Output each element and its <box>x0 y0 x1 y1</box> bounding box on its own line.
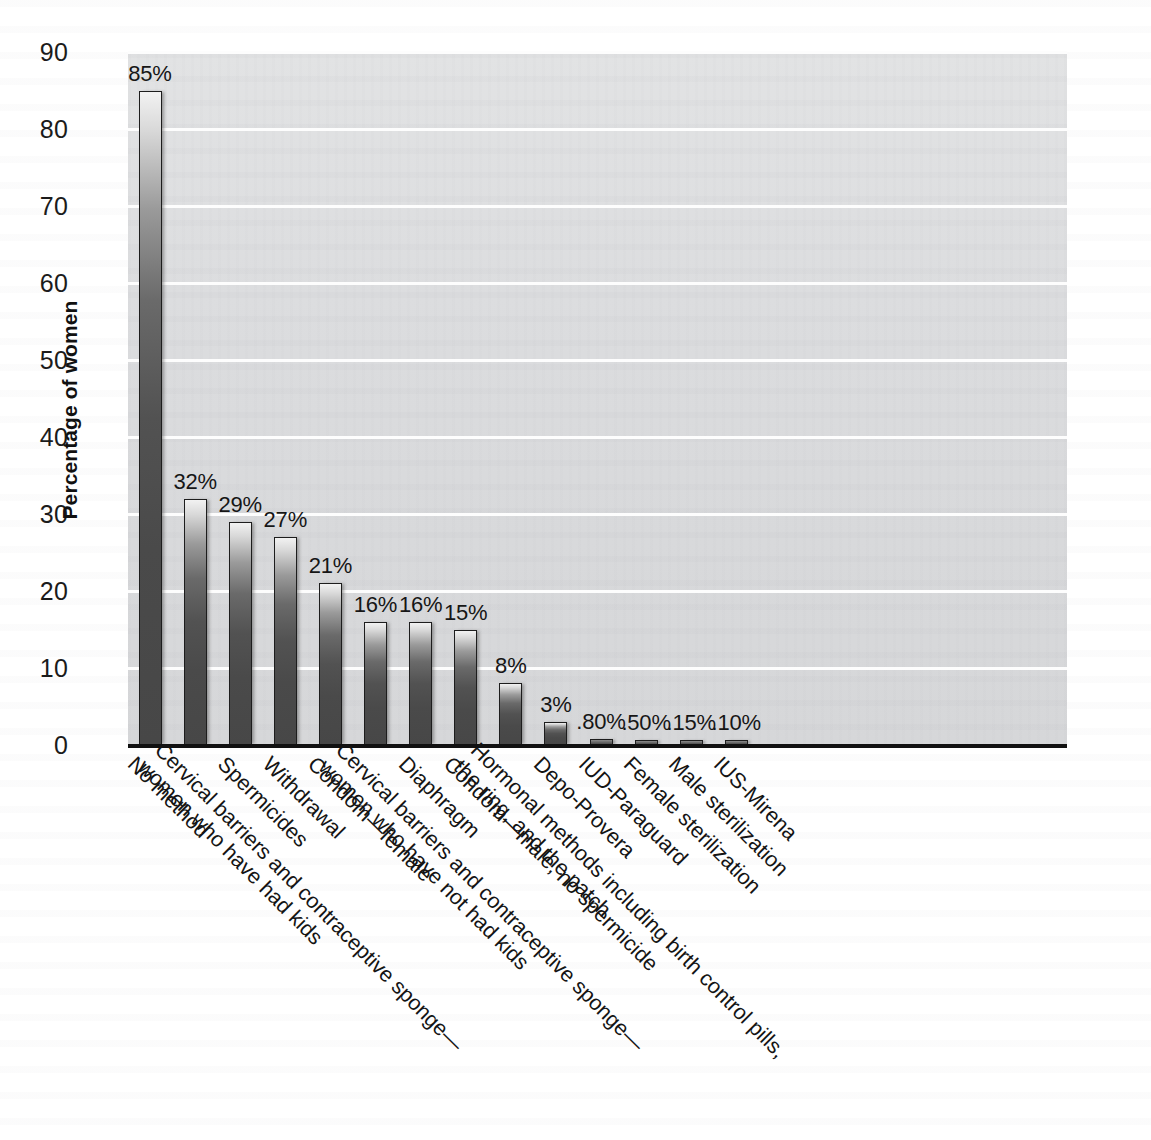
bar-value-label: 16% <box>399 592 442 618</box>
y-tick-label-10: 10 <box>16 656 68 681</box>
plot-area <box>128 52 1067 745</box>
gridline-20 <box>128 590 1067 593</box>
bar-value-label: .50% <box>621 710 670 736</box>
bar <box>454 630 477 746</box>
bar-value-label: 32% <box>173 469 216 495</box>
bar <box>499 683 522 745</box>
gridline-50 <box>128 359 1067 362</box>
bar-value-label: 3% <box>540 692 571 718</box>
y-tick-label-0: 0 <box>16 733 68 758</box>
gridline-80 <box>128 128 1067 131</box>
bar-value-label: 27% <box>264 507 307 533</box>
bar <box>319 583 342 745</box>
gridline-40 <box>128 436 1067 439</box>
bar <box>274 537 297 745</box>
bar-value-label: .10% <box>712 710 761 736</box>
y-tick-label-90: 90 <box>16 40 68 65</box>
bar <box>229 522 252 745</box>
bar-value-label: .80% <box>576 709 625 735</box>
bar-value-label: 29% <box>218 492 261 518</box>
y-tick-label-80: 80 <box>16 117 68 142</box>
bar <box>364 622 387 745</box>
bar-value-label: 16% <box>354 592 397 618</box>
bar-value-label: 85% <box>128 61 171 87</box>
y-tick-label-70: 70 <box>16 194 68 219</box>
gridline-10 <box>128 667 1067 670</box>
bar-chart-figure: 85%32%29%27%21%16%16%15%8%3%.80%.50%.15%… <box>0 0 1151 1140</box>
bar <box>184 499 207 745</box>
gridline-90 <box>128 51 1067 54</box>
plot-paper-texture <box>128 52 1067 745</box>
y-axis-title: Percentage of women <box>58 280 82 540</box>
y-tick-label-20: 20 <box>16 579 68 604</box>
bar <box>409 622 432 745</box>
bar-value-label: 8% <box>495 653 526 679</box>
x-axis-line <box>128 744 1067 748</box>
bar <box>544 722 567 745</box>
gridline-70 <box>128 205 1067 208</box>
gridline-60 <box>128 282 1067 285</box>
bar <box>139 91 162 746</box>
bar-value-label: 15% <box>444 600 487 626</box>
bar-value-label: 21% <box>309 553 352 579</box>
bar-value-label: .15% <box>667 710 716 736</box>
